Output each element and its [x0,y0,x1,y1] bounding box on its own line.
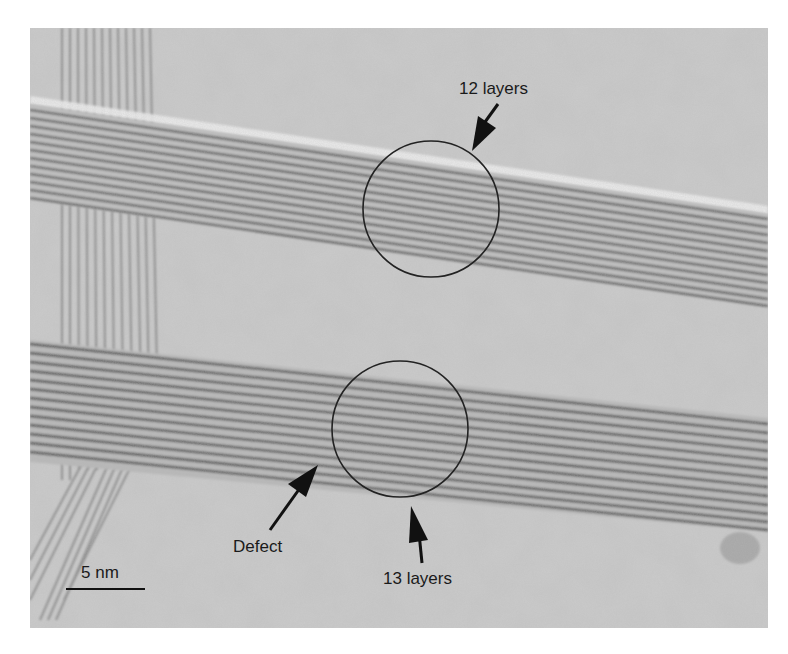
label-defect: Defect [233,538,282,555]
label-13-layers: 13 layers [383,570,452,587]
scale-bar-label: 5 nm [81,564,119,581]
scale-bar [66,588,145,590]
label-12-layers: 12 layers [459,80,528,97]
tem-micrograph [0,0,788,654]
micrograph-area [30,28,768,628]
